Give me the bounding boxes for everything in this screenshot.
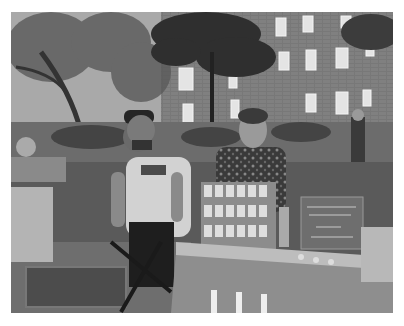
chalkboard-sign [301,197,363,249]
table-left [11,187,53,262]
card-display [201,182,276,252]
photo [11,12,393,313]
scene [11,12,393,313]
